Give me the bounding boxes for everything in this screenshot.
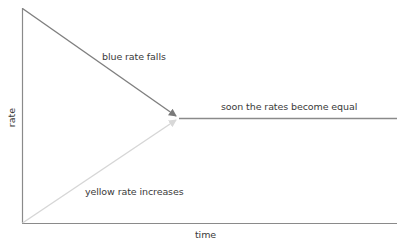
yellow-rate-label: yellow rate increases [85,186,184,197]
equal-rate-label: soon the rates become equal [221,101,357,112]
y-axis-label: rate [6,108,17,127]
blue-rate-label: blue rate falls [102,51,166,62]
x-axis-label: time [195,229,216,240]
rate-diagram [0,0,410,246]
yellow-rate-arrow [23,120,177,223]
blue-rate-arrow [23,9,177,117]
